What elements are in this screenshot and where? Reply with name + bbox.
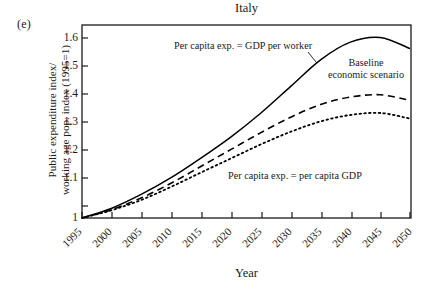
plot-frame	[82, 25, 411, 218]
annotation-leader-line	[308, 52, 316, 62]
x-tick-marks	[82, 212, 410, 218]
annotation-baseline-scenario: Baseline economic scenario	[320, 57, 412, 80]
y-tick-marks	[82, 38, 88, 206]
annotation-baseline-line2: economic scenario	[320, 69, 412, 81]
annotation-gdp-per-worker: Per capita exp. = GDP per worker	[174, 40, 312, 52]
annotation-baseline-line1: Baseline	[320, 57, 412, 69]
annotation-per-capita-gdp: Per capita exp. = per capita GDP	[228, 170, 362, 182]
chart-figure: (e) Italy Public expenditure index/ work…	[0, 0, 438, 290]
